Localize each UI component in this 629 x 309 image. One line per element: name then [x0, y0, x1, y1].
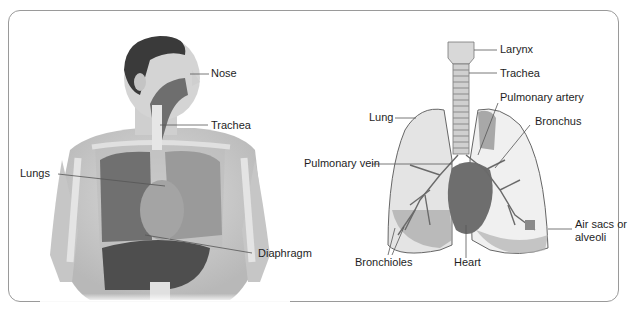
label-diaphragm: Diaphragm	[258, 247, 312, 260]
label-pulmonary-artery: Pulmonary artery	[500, 91, 584, 104]
label-pulmonary-vein: Pulmonary vein	[304, 157, 380, 170]
label-trachea-left: Trachea	[211, 119, 251, 132]
label-trachea-right: Trachea	[500, 67, 540, 80]
label-bronchioles: Bronchioles	[355, 256, 412, 269]
label-air-sacs: Air sacs or alveoli	[575, 218, 627, 244]
label-larynx: Larynx	[500, 43, 533, 56]
label-heart: Heart	[454, 256, 481, 269]
label-lungs: Lungs	[20, 167, 50, 180]
label-nose: Nose	[211, 67, 237, 80]
human-torso-figure	[0, 0, 629, 309]
label-bronchus: Bronchus	[535, 115, 581, 128]
label-lung: Lung	[369, 111, 393, 124]
